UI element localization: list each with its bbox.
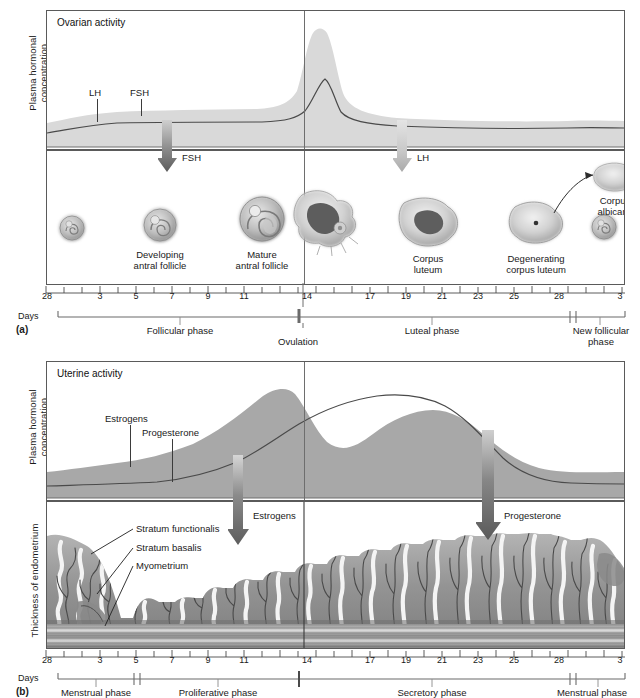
tick-b-2: 5 (126, 655, 146, 665)
arrow-estrogens-b (228, 455, 254, 545)
ovulation-guide-line-b-top (304, 362, 305, 501)
uterine-hormone-curves (47, 362, 625, 501)
degenerating-corpus-luteum (509, 202, 562, 243)
panel-b-label-estrogens: Estrogens (105, 413, 148, 424)
caption-degenerating-corpus-luteum: Degeneratingcorpus luteum (506, 253, 566, 275)
panel-a-days-word: Days (18, 311, 39, 321)
phase-label-new-follicular: New follicularphase (573, 325, 630, 347)
panel-a-hormone-chart: Ovarian activity LH FSH (46, 10, 625, 150)
tick-a-0: 28 (37, 291, 57, 301)
phase-label-luteal: Luteal phase (405, 325, 459, 336)
phase-label-menstrual-1: Menstrual phase (61, 687, 131, 698)
tick-a-8: 19 (396, 291, 416, 301)
panel-b-leader-progesterone (172, 439, 173, 482)
tick-a-3: 7 (162, 291, 182, 301)
caption-mature-antral-follicle: Matureantral follicle (236, 249, 289, 271)
tick-a-2: 5 (126, 291, 146, 301)
arrow-label-progesterone-b: Progesterone (504, 510, 561, 521)
tick-b-1: 3 (90, 655, 110, 665)
tick-b-10: 23 (468, 655, 488, 665)
tick-b-0: 28 (37, 655, 57, 665)
tick-a-5: 11 (234, 291, 254, 301)
panel-letter-a: (a) (16, 324, 28, 335)
caption-corpus-albicans: Corpusalbicans (598, 195, 625, 217)
panel-b-endometrium-chart: Stratum functionalis Stratum basalis Myo… (46, 501, 625, 649)
tick-b-13: 3 (610, 655, 630, 665)
phase-label-menstrual-2: Menstrual phase (557, 687, 627, 698)
follicle-new-cycle (591, 214, 617, 240)
panel-b-hormone-chart: Uterine activity Estrogens Progesterone (46, 361, 625, 501)
phase-label-follicular: Follicular phase (147, 325, 214, 336)
label-ovulation: Ovulation (278, 336, 318, 347)
follicle-ovulating (294, 191, 358, 256)
corpus-albicans (594, 163, 625, 191)
panel-a-events-chart: Developingantral follicle Matureantral f… (46, 150, 625, 285)
panel-a-label-lh: LH (89, 87, 101, 98)
leader-label-stratum-functionalis: Stratum functionalis (136, 523, 219, 534)
tick-a-9: 21 (432, 291, 452, 301)
panel-b-endometrium-y-axis-label: Thickness of endometrium (29, 506, 40, 656)
arrow-label-lh-a: LH (417, 152, 429, 163)
ovulation-guide-line-a-top (304, 11, 305, 150)
panel-b-leader-estrogens (130, 425, 131, 467)
tick-b-3: 7 (162, 655, 182, 665)
follicle-early (59, 215, 85, 241)
panel-a-leader-fsh (141, 99, 142, 116)
endometrium-illustration (47, 502, 625, 649)
arrow-progesterone-b (476, 430, 506, 540)
arrow-fsh-a (158, 120, 180, 172)
tick-a-7: 17 (360, 291, 380, 301)
tick-a-12: 28 (549, 291, 569, 301)
caption-corpus-luteum: Corpusluteum (413, 253, 444, 275)
leader-label-stratum-basalis: Stratum basalis (136, 542, 201, 553)
tick-a-13: 3 (610, 291, 630, 301)
follicle-mature-antral (239, 196, 285, 242)
panel-b-label-progesterone: Progesterone (142, 427, 199, 438)
tick-a-1: 3 (90, 291, 110, 301)
tick-b-9: 21 (432, 655, 452, 665)
follicle-developing-antral (143, 208, 177, 242)
phase-label-proliferative: Proliferative phase (179, 687, 258, 698)
panel-a-day-axis (0, 283, 640, 328)
tick-b-12: 28 (549, 655, 569, 665)
panel-b-days-word: Days (18, 673, 39, 683)
tick-a-4: 9 (198, 291, 218, 301)
ovarian-hormone-curves (47, 11, 625, 150)
tick-b-7: 17 (360, 655, 380, 665)
caption-developing-antral-follicle: Developingantral follicle (134, 249, 187, 271)
panel-letter-b: (b) (16, 686, 29, 697)
tick-b-8: 19 (396, 655, 416, 665)
arrow-to-corpus-albicans (554, 172, 593, 213)
phase-label-secretory: Secretory phase (397, 687, 466, 698)
arrow-lh-a (393, 120, 415, 172)
arrow-label-estrogens-b: Estrogens (253, 510, 296, 521)
leader-label-myometrium: Myometrium (136, 560, 188, 571)
corpus-luteum (399, 198, 457, 246)
tick-b-5: 11 (234, 655, 254, 665)
arrow-label-fsh-a: FSH (182, 152, 201, 163)
tick-b-4: 9 (198, 655, 218, 665)
panel-a-leader-lh (97, 99, 98, 122)
tick-a-10: 23 (468, 291, 488, 301)
tick-a-6: 14 (297, 291, 317, 301)
tick-a-11: 25 (504, 291, 524, 301)
panel-a-label-fsh: FSH (130, 87, 149, 98)
tick-b-6: 14 (297, 655, 317, 665)
tick-b-11: 25 (504, 655, 524, 665)
